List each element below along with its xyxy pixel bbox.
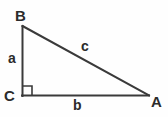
side-label-c: c <box>81 39 89 53</box>
side-label-a: a <box>8 51 16 65</box>
right-angle-marker-icon <box>23 86 32 95</box>
vertex-label-b: B <box>15 8 26 23</box>
right-triangle-diagram: B C A a b c <box>0 0 168 117</box>
side-c-line <box>23 26 150 96</box>
vertex-label-a: A <box>151 94 162 109</box>
side-label-b: b <box>73 98 82 112</box>
vertex-label-c: C <box>4 88 15 103</box>
